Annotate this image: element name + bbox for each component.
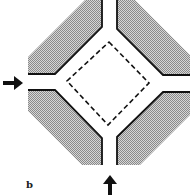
quadrant-bottom-right (117, 92, 190, 165)
arrow-right-icon (3, 76, 23, 90)
center-dashed-diamond (67, 42, 149, 125)
octagon-channel-diagram (0, 0, 193, 196)
quadrant-top-left (28, 0, 102, 74)
panel-label: b (26, 179, 33, 190)
quadrant-bottom-left (28, 90, 102, 165)
quadrant-top-right (117, 0, 190, 75)
arrow-up-icon (103, 175, 117, 195)
